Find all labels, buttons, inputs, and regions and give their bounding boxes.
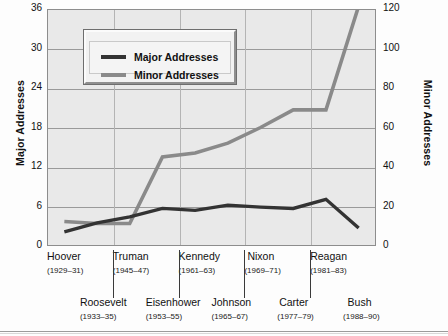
category-label-separator [244, 250, 245, 286]
left-tick-label: 12 [3, 167, 47, 178]
legend-label-major: Major Addresses [134, 51, 218, 63]
category-years: (1981–83) [310, 265, 343, 277]
category-label-separator [113, 250, 114, 286]
category-label-separator [310, 286, 311, 298]
category-years: (1953–55) [146, 311, 179, 323]
category-name: Truman [113, 250, 146, 263]
left-tick-label: 18 [3, 128, 47, 139]
category-label-reagan: Reagan(1981–83) [310, 250, 343, 277]
left-tick-label: 36 [3, 9, 47, 20]
category-years: (1965–67) [212, 311, 245, 323]
category-years: (1961–63) [179, 265, 212, 277]
category-label-johnson: Johnson(1965–67) [212, 296, 245, 323]
category-label-separator [179, 286, 180, 298]
legend-swatch-major [101, 55, 126, 59]
chart-figure: Major Addresses Minor Addresses 06121824… [0, 0, 448, 336]
right-tick-label: 120 [377, 9, 421, 20]
category-name: Hoover [47, 250, 80, 263]
category-name: Bush [343, 296, 376, 309]
left-tick-label: 0 [3, 246, 47, 257]
category-label-separator [113, 286, 114, 298]
major-addresses-line [64, 199, 358, 232]
category-years: (1969–71) [244, 265, 277, 277]
category-name: Nixon [244, 250, 277, 263]
footer-rule-shadow [0, 333, 448, 334]
category-years: (1977–79) [277, 311, 310, 323]
category-label-separator [310, 250, 311, 286]
right-tick-label: 80 [377, 88, 421, 99]
category-label-separator [244, 286, 245, 298]
left-tick-label: 6 [3, 207, 47, 218]
category-label-hoover: Hoover(1929–31) [47, 250, 80, 277]
right-tick-label: 20 [377, 207, 421, 218]
right-tick-label: 100 [377, 49, 421, 60]
category-years: (1988–90) [343, 311, 376, 323]
left-tick-label: 24 [3, 88, 47, 99]
category-labels-row-lower: Roosevelt(1933–35)Eisenhower(1953–55)Joh… [47, 296, 376, 330]
chart-legend: Major Addresses Minor Addresses [84, 30, 236, 84]
legend-swatch-minor [101, 73, 126, 77]
legend-entry-minor: Minor Addresses [90, 66, 230, 84]
category-name: Reagan [310, 250, 343, 263]
category-label-roosevelt: Roosevelt(1933–35) [80, 296, 113, 323]
category-labels-row-upper: Hoover(1929–31)Truman(1945–47)Kennedy(19… [47, 250, 376, 286]
legend-entry-major: Major Addresses [90, 48, 230, 66]
category-years: (1945–47) [113, 265, 146, 277]
right-tick-label: 60 [377, 128, 421, 139]
legend-inner-frame: Major Addresses Minor Addresses [89, 41, 231, 74]
category-name: Eisenhower [146, 296, 179, 309]
category-name: Johnson [212, 296, 245, 309]
left-tick-label: 30 [3, 49, 47, 60]
category-label-eisenhower: Eisenhower(1953–55) [146, 296, 179, 323]
right-tick-label: 40 [377, 167, 421, 178]
category-label-carter: Carter(1977–79) [277, 296, 310, 323]
category-label-separator [179, 250, 180, 286]
category-label-bush: Bush(1988–90) [343, 296, 376, 323]
footer-rule [0, 331, 448, 332]
category-name: Roosevelt [80, 296, 113, 309]
category-label-nixon: Nixon(1969–71) [244, 250, 277, 277]
category-name: Carter [277, 296, 310, 309]
category-label-truman: Truman(1945–47) [113, 250, 146, 277]
left-axis-ticks: 061218243036 [0, 9, 47, 246]
legend-label-minor: Minor Addresses [134, 69, 219, 81]
category-label-kennedy: Kennedy(1961–63) [179, 250, 212, 277]
category-years: (1933–35) [80, 311, 113, 323]
category-years: (1929–31) [47, 265, 80, 277]
category-name: Kennedy [179, 250, 212, 263]
right-axis-ticks: 020406080100120 [377, 9, 427, 246]
right-tick-label: 0 [377, 246, 421, 257]
